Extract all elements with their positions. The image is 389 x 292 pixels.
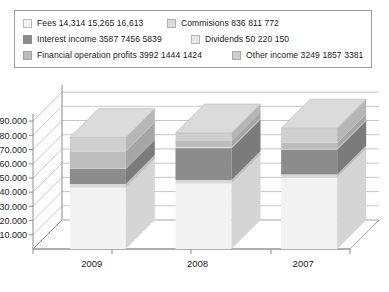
legend-item-other-income[interactable]: Other income 3249 1857 3381 [232,47,363,63]
gridline-depth [33,177,62,206]
gridline-depth [33,163,62,192]
bar-face-front [176,184,232,249]
legend-swatch-commisions [167,19,176,28]
gridline-depth [33,106,62,135]
y-axis-tick-label: 30.000 [0,202,27,212]
chart-bars [70,99,366,249]
bar-face-front [70,137,126,151]
bar-face-front [281,143,337,149]
x-axis-tick-label: 2009 [81,258,102,269]
bar-face-front [176,148,232,180]
y-axis-tick-label: 60.000 [0,159,27,169]
legend-row: Interest income 3587 7456 5839 Dividends… [15,31,371,47]
bar-face-front [176,180,232,183]
bar-face-front [281,149,337,150]
legend-label-dividends: Dividends 50 220 150 [205,34,289,44]
legend-row: Financial operation profits 3992 1444 14… [15,47,371,63]
y-axis-tick-label: 20.000 [0,216,27,226]
gridline-depth [33,149,62,178]
bar-face-front [176,141,232,147]
chart-plot-area: 10.00020.00030.00040.00050.00060.00070.0… [0,72,389,292]
y-axis-tick-label: 50.000 [0,173,27,183]
y-axis-tick-label: 40.000 [0,187,27,197]
legend-swatch-financial-operation-profits [23,51,32,60]
legend-label-fees: Fees 14,314 15,265 16,613 [37,18,143,28]
chart-container: Fees 14,314 15,265 16,613 Commisions 836… [0,0,389,292]
bar-face-front [70,169,126,184]
x-axis-tick-label: 2008 [187,258,208,269]
legend-item-dividends[interactable]: Dividends 50 220 150 [191,31,289,47]
y-axis-tick-label: 10.000 [0,230,27,240]
legend-label-interest-income: Interest income 3587 7456 5839 [37,34,162,44]
bar-face-front [176,133,232,141]
bar-face-front [281,178,337,249]
gridline-depth [33,92,62,121]
legend-swatch-fees [23,19,32,28]
x-axis-ticks [33,249,350,254]
gridline-depth [33,192,62,221]
legend-label-financial-operation-profits: Financial operation profits 3992 1444 14… [37,50,202,60]
legend-swatch-other-income [232,51,241,60]
x-axis-tick-labels: 200920082007 [81,258,313,269]
legend-row: Fees 14,314 15,265 16,613 Commisions 836… [15,15,371,31]
y-axis-tick-label: 90.000 [0,116,27,126]
bar-face-front [70,151,126,168]
y-axis-tick-labels: 10.00020.00030.00040.00050.00060.00070.0… [0,116,27,240]
legend-item-financial-operation-profits[interactable]: Financial operation profits 3992 1444 14… [23,47,202,63]
gridline-depth [33,135,62,164]
legend-label-other-income: Other income 3249 1857 3381 [246,50,363,60]
chart-legend: Fees 14,314 15,265 16,613 Commisions 836… [14,10,372,68]
legend-item-commisions[interactable]: Commisions 836 811 772 [167,15,279,31]
legend-swatch-dividends [191,35,200,44]
legend-label-commisions: Commisions 836 811 772 [181,18,279,28]
bar-face-front [70,184,126,188]
gridline-depth [33,121,62,150]
chart-svg: 10.00020.00030.00040.00050.00060.00070.0… [0,72,389,292]
bar-face-front [281,128,337,142]
y-axis-tick-label: 70.000 [0,145,27,155]
bar-face-front [281,174,337,177]
legend-item-interest-income[interactable]: Interest income 3587 7456 5839 [23,31,162,47]
x-axis-tick-label: 2007 [293,258,314,269]
bar-face-front [70,188,126,249]
y-axis-tick-label: 80.000 [0,131,27,141]
legend-item-fees[interactable]: Fees 14,314 15,265 16,613 [23,15,143,31]
bar-face-front [281,149,337,174]
legend-swatch-interest-income [23,35,32,44]
bar-face-front [176,147,232,148]
